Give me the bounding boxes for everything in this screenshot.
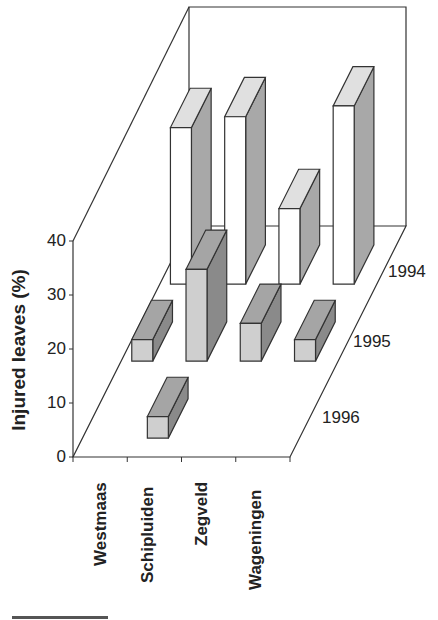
bar-1995-wageningen-front [295, 340, 316, 362]
depth-label-1996: 1996 [322, 408, 360, 428]
scale-bar [12, 616, 108, 619]
bar-1995-westmaas-front [132, 340, 153, 362]
3d-bar-chart [0, 0, 438, 620]
bar-1995-schipluiden-front [186, 269, 207, 361]
depth-label-1995: 1995 [353, 332, 391, 352]
x-category-schipluiden: Schipluiden [138, 487, 158, 583]
y-tick-10: 10 [36, 393, 66, 413]
x-category-westmaas: Westmaas [91, 482, 111, 566]
y-tick-0: 0 [36, 447, 66, 467]
y-axis-label: Injured leaves (%) [8, 269, 30, 431]
bar-1995-zegveld-front [240, 323, 261, 361]
bar-1994-schipluiden-front [225, 117, 246, 284]
y-tick-40: 40 [36, 231, 66, 251]
depth-label-1994: 1994 [388, 262, 426, 282]
y-tick-30: 30 [36, 285, 66, 305]
bar-1996-schipluiden-front [147, 417, 168, 439]
bar-1994-wageningen-front [333, 106, 354, 284]
bar-1994-zegveld-front [279, 209, 300, 285]
x-category-zegveld: Zegveld [192, 482, 212, 546]
y-tick-20: 20 [36, 339, 66, 359]
x-category-wageningen: Wageningen [246, 490, 266, 590]
bar-1994-westmaas-front [170, 128, 191, 285]
